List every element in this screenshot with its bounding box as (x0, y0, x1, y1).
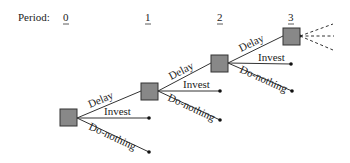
label-donothing-0: Do-nothing (87, 120, 138, 153)
terminal-donothing-2 (290, 89, 294, 93)
period-0: 0 (63, 11, 69, 23)
decision-node-1 (141, 83, 158, 100)
label-invest-0: Invest (104, 105, 131, 117)
terminal-donothing-1 (218, 118, 222, 122)
continuation-branches (300, 24, 334, 50)
branch-labels: Delay Invest Do-nothing Delay Invest Do-… (86, 31, 290, 152)
period-header: Period: 0 1 2 3 (18, 11, 294, 24)
label-donothing-1: Do-nothing (166, 91, 217, 124)
decision-node-2 (211, 55, 228, 72)
period-3: 3 (288, 11, 294, 23)
period-2: 2 (217, 11, 223, 23)
decision-node-0 (60, 109, 77, 126)
decision-tree-diagram: Period: 0 1 2 3 (0, 0, 350, 163)
period-label: Period: (18, 11, 50, 23)
terminal-donothing-0 (147, 150, 151, 154)
label-invest-1: Invest (183, 78, 210, 90)
period-1: 1 (145, 11, 151, 23)
terminal-invest-2 (289, 62, 293, 66)
decision-node-3 (283, 28, 300, 45)
dashed-branch-down (300, 36, 333, 50)
terminal-invest-0 (147, 116, 151, 120)
dashed-branch-up (300, 24, 333, 36)
label-invest-2: Invest (258, 51, 285, 63)
terminal-invest-1 (218, 89, 222, 93)
label-donothing-2: Do-nothing (238, 63, 290, 95)
branch-invest-2 (228, 63, 291, 64)
